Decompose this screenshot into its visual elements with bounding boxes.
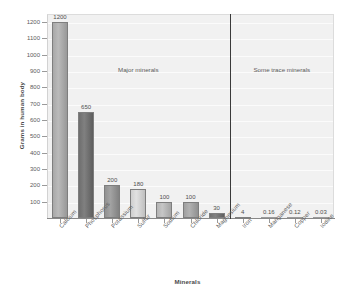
x-axis-title: Minerals [40,278,335,285]
section-caption-major: Major minerals [78,66,198,73]
y-tick-label: 300 [14,166,40,172]
bar-value-label: 1200 [44,14,76,20]
y-tick-mark [42,104,47,105]
y-tick-mark [42,22,47,23]
y-tick-label: 100 [14,199,40,205]
gridline [48,56,333,57]
mineral-bar-chart: Grams in human body 12001100100090080070… [0,0,345,300]
gridline [48,88,333,89]
y-tick-mark [42,38,47,39]
bar-value-label: 650 [70,104,102,110]
section-divider [230,14,231,219]
y-tick-label: 400 [14,150,40,156]
y-tick-mark [42,185,47,186]
y-tick-mark [42,55,47,56]
bar-sulfur [130,189,146,218]
y-tick-label: 800 [14,84,40,90]
y-tick-label: 900 [14,68,40,74]
y-tick-label: 700 [14,101,40,107]
bar-phosphorus [78,112,94,218]
y-tick-mark [42,87,47,88]
y-tick-label: 500 [14,133,40,139]
bar-value-label: 180 [122,181,154,187]
bar-calcium [52,22,68,218]
y-tick-label: 200 [14,182,40,188]
y-tick-mark [42,136,47,137]
gridline [48,39,333,40]
y-tick-mark [42,153,47,154]
y-tick-label: 1000 [14,52,40,58]
gridline [48,23,333,24]
y-tick-label: 600 [14,117,40,123]
y-tick-mark [42,71,47,72]
y-tick-label: 1200 [14,19,40,25]
y-tick-label: 1100 [14,35,40,41]
section-caption-trace: Some trace minerals [222,66,342,73]
y-tick-mark [42,169,47,170]
y-tick-mark [42,120,47,121]
bar-value-label: 100 [175,194,207,200]
y-tick-mark [42,202,47,203]
